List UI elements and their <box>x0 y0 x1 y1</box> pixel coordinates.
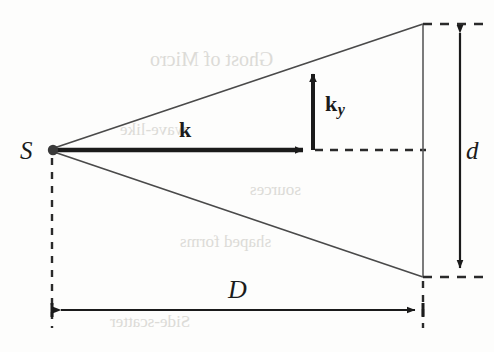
distance-dimension-label: D <box>228 277 247 303</box>
ky-base-glyph: k <box>325 91 337 116</box>
lower-ray <box>54 152 423 277</box>
aperture-dimension-label: d <box>466 138 479 163</box>
ky-vector-label: ky <box>325 93 345 118</box>
diagram-vector-layer <box>0 0 494 352</box>
k-vector-label: k <box>179 119 191 141</box>
upper-ray <box>54 24 423 148</box>
source-label: S <box>20 138 33 163</box>
ky-subscript-glyph: y <box>338 101 345 118</box>
source-point-dot <box>48 145 58 155</box>
figure-canvas: Ghost of Micro wave-like sources shaped … <box>0 0 494 352</box>
